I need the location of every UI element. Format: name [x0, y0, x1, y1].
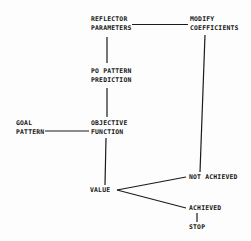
node-modify-coefficients: MODIFY COEFFICIENTS	[190, 15, 239, 33]
node-achieved: ACHIEVED	[189, 204, 221, 213]
flowchart-canvas: REFLECTOR PARAMETERS MODIFY COEFFICIENTS…	[0, 0, 251, 241]
node-reflector-parameters: REFLECTOR PARAMETERS	[91, 15, 131, 33]
edge-objective-to-value	[105, 138, 106, 185]
node-label-line2: COEFFICIENTS	[190, 24, 239, 33]
node-label: ACHIEVED	[189, 204, 221, 213]
node-po-pattern-prediction: PO PATTERN PREDICTION	[91, 67, 131, 85]
node-label-line1: GOAL	[16, 119, 44, 128]
node-not-achieved: NOT ACHIEVED	[189, 173, 238, 182]
node-label-line2: PARAMETERS	[91, 24, 131, 33]
node-label-line1: PO PATTERN	[91, 67, 131, 76]
edge-value-to-achieved	[117, 190, 186, 208]
node-label-line2: FUNCTION	[91, 128, 127, 137]
node-label-line1: MODIFY	[190, 15, 239, 24]
node-label-line1: OBJECTIVE	[91, 119, 127, 128]
node-label: STOP	[189, 223, 205, 232]
edge-not-achieved-to-modify	[200, 35, 205, 172]
edge-value-to-not-achieved	[117, 177, 186, 190]
node-goal-pattern: GOAL PATTERN	[16, 119, 44, 137]
node-value: VALUE	[90, 186, 110, 195]
node-label-line2: PATTERN	[16, 128, 44, 137]
node-label-line1: REFLECTOR	[91, 15, 131, 24]
node-label: VALUE	[90, 186, 110, 195]
node-label: NOT ACHIEVED	[189, 173, 238, 182]
node-objective-function: OBJECTIVE FUNCTION	[91, 119, 127, 137]
node-stop: STOP	[189, 223, 205, 232]
node-label-line2: PREDICTION	[91, 76, 131, 85]
